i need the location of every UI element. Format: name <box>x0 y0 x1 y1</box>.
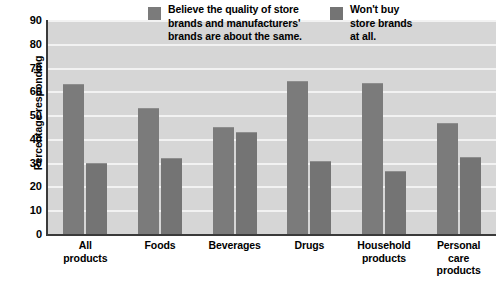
bar-chart-figure: Percentage responding 908070605040302010… <box>0 0 497 282</box>
x-axis-tick-label: Drugs <box>294 239 324 252</box>
y-axis-tick-label: 40 <box>14 133 42 145</box>
bar <box>287 81 308 234</box>
legend-swatch-icon <box>148 7 161 20</box>
y-axis-tick-labels: 9080706050403020100 <box>14 14 42 240</box>
legend-swatch-icon <box>330 7 343 20</box>
x-axis-tick-label: Personal care products <box>437 239 481 277</box>
y-axis-tick-label: 30 <box>14 157 42 169</box>
y-axis-tick-label: 0 <box>14 228 42 240</box>
y-axis-tick-label: 60 <box>14 85 42 97</box>
bar <box>138 108 159 234</box>
bar <box>161 158 182 234</box>
bar <box>437 123 458 234</box>
y-axis-tick-label: 50 <box>14 109 42 121</box>
y-axis-tick-label: 80 <box>14 38 42 50</box>
bar-series-container <box>48 20 496 234</box>
bar <box>213 127 234 234</box>
bar <box>385 171 406 234</box>
x-axis-tick-labels: All productsFoodsBeveragesDrugsHousehold… <box>48 239 496 281</box>
legend-entry: Believe the quality of store brands and … <box>148 3 302 44</box>
x-axis-tick-label: Foods <box>145 239 176 252</box>
legend-entry: Won't buy store brands at all. <box>330 3 412 44</box>
bar <box>63 84 84 234</box>
bar <box>236 132 257 234</box>
x-axis-tick-label: All products <box>63 239 107 264</box>
bar <box>362 83 383 234</box>
bar <box>310 161 331 234</box>
x-axis-tick-label: Beverages <box>209 239 261 252</box>
plot-area <box>46 20 496 236</box>
x-axis-tick-label: Household products <box>357 239 410 264</box>
chart-legend: Believe the quality of store brands and … <box>148 3 412 44</box>
legend-label: Won't buy store brands at all. <box>350 3 412 44</box>
y-axis-tick-label: 70 <box>14 62 42 74</box>
y-axis-tick-label: 20 <box>14 180 42 192</box>
bar <box>460 157 481 234</box>
legend-label: Believe the quality of store brands and … <box>168 3 302 44</box>
y-axis-tick-label: 90 <box>14 14 42 26</box>
bar <box>86 163 107 234</box>
y-axis-tick-label: 10 <box>14 204 42 216</box>
